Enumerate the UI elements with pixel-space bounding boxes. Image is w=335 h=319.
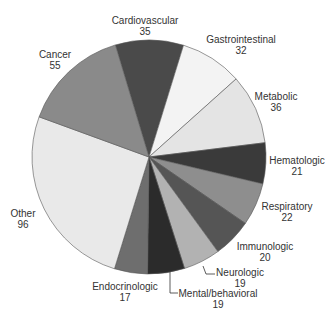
label-metabolic: Metabolic36 [255, 92, 298, 113]
label-name: Immunologic [237, 242, 294, 253]
label-value: 22 [261, 213, 312, 224]
leader-line-neurologic [203, 266, 215, 274]
label-value: 19 [179, 300, 258, 311]
label-value: 36 [255, 103, 298, 114]
label-other: Other96 [10, 209, 35, 230]
label-immunologic: Immunologic20 [237, 242, 294, 263]
label-hematologic: Hematologic21 [269, 156, 325, 177]
label-name: Cardiovascular [112, 16, 179, 27]
label-gastrointestinal: Gastrointestinal32 [206, 35, 275, 56]
label-name: Hematologic [269, 156, 325, 167]
label-value: 55 [39, 61, 71, 72]
label-cancer: Cancer55 [39, 50, 71, 71]
label-endocrinologic: Endocrinologic17 [92, 282, 158, 303]
pie-slices [32, 40, 266, 274]
label-name: Other [10, 209, 35, 220]
label-value: 17 [92, 293, 158, 304]
label-name: Cancer [39, 50, 71, 61]
label-mental-behavioral: Mental/behavioral19 [179, 289, 258, 310]
label-value: 21 [269, 167, 325, 178]
label-neurologic: Neurologic19 [216, 268, 264, 289]
label-value: 35 [112, 27, 179, 38]
label-name: Mental/behavioral [179, 289, 258, 300]
leader-line-mental-behavioral [170, 272, 178, 293]
label-value: 96 [10, 220, 35, 231]
label-name: Gastrointestinal [206, 35, 275, 46]
label-respiratory: Respiratory22 [261, 202, 312, 223]
label-value: 20 [237, 253, 294, 264]
label-name: Neurologic [216, 268, 264, 279]
label-name: Endocrinologic [92, 282, 158, 293]
label-value: 32 [206, 46, 275, 57]
label-cardiovascular: Cardiovascular35 [112, 16, 179, 37]
label-name: Respiratory [261, 202, 312, 213]
label-name: Metabolic [255, 92, 298, 103]
